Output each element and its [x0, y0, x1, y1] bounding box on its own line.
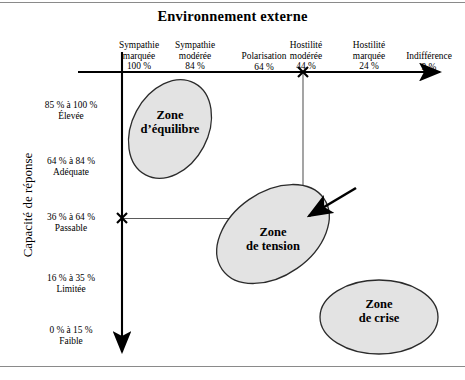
zone-tension-shape[interactable] [198, 164, 348, 304]
diagram-canvas: Environnement externe Sympathie marquée … [0, 0, 465, 380]
zone-crise-shape[interactable] [320, 280, 438, 354]
zone-equilibre-shape[interactable] [112, 65, 228, 193]
plot-area [0, 0, 465, 380]
